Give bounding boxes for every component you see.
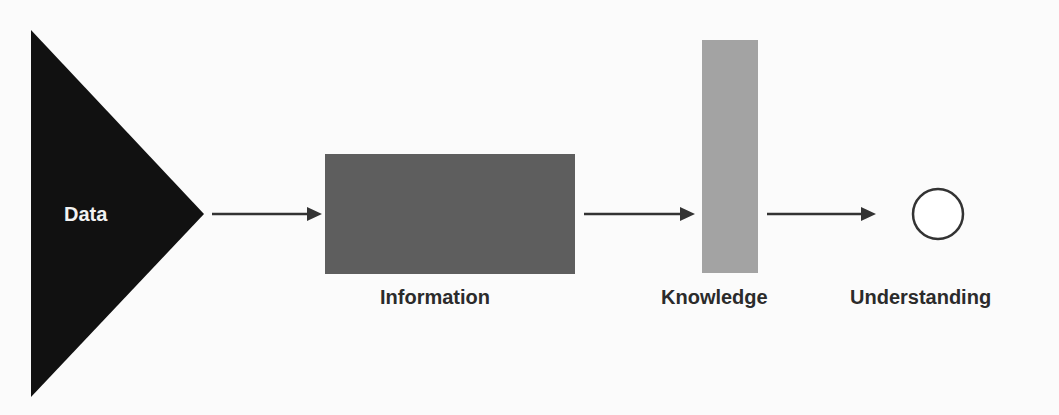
knowledge-label: Knowledge [661, 287, 768, 307]
arrowhead-icon [861, 207, 876, 221]
information-node-rect [325, 154, 575, 274]
arrowhead-icon [680, 207, 695, 221]
arrowhead-icon [307, 207, 322, 221]
information-label: Information [380, 287, 490, 307]
dikw-diagram: Data Information Knowledge Understanding [0, 0, 1059, 415]
data-node-triangle [31, 30, 204, 397]
knowledge-node-bar [702, 40, 758, 273]
diagram-canvas [0, 0, 1059, 415]
data-label: Data [64, 204, 107, 224]
understanding-label: Understanding [850, 287, 991, 307]
understanding-node-circle [913, 189, 963, 239]
